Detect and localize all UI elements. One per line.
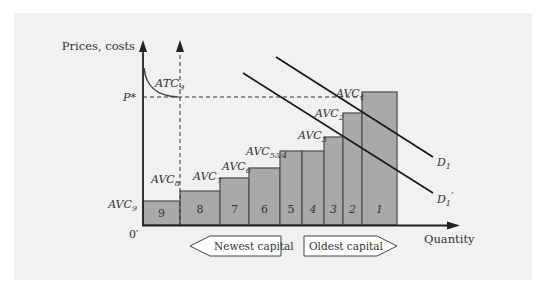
bar-label-4: 4 — [309, 203, 317, 216]
dashed-arrow-head-icon — [176, 40, 184, 52]
y-axis-arrow-icon — [139, 40, 147, 52]
origin-label: 0′ — [129, 228, 139, 241]
avc-label-3: AVC3 — [297, 129, 327, 144]
avc-label-9: AVC9 — [107, 198, 137, 213]
d1-prime-label: D1′ — [436, 190, 454, 208]
avc-label-8: AVC8 — [150, 173, 180, 188]
oldest-capital-label: Oldest capital — [309, 240, 384, 252]
bar-label-7: 7 — [231, 203, 238, 216]
avc-label-5: AVC5&4 — [245, 145, 287, 160]
bar-label-8: 8 — [197, 203, 204, 216]
newest-capital-arrow: Newest capital — [190, 236, 294, 256]
price-label: P* — [122, 91, 136, 104]
bar-label-3: 3 — [330, 203, 337, 216]
avc-label-6: AVC6 — [221, 160, 251, 175]
bar-label-6: 6 — [261, 203, 268, 216]
d1-label: D1 — [436, 156, 451, 171]
avc-label-7: AVC7 — [192, 170, 223, 185]
bar-label-1: 1 — [376, 203, 383, 216]
newest-capital-label: Newest capital — [214, 240, 294, 252]
avc-capital-diagram: 987654321 Prices, costs Quantity 0′ P* A… — [0, 0, 546, 295]
oldest-capital-arrow: Oldest capital — [304, 236, 397, 256]
avc-label-1: AVC1 — [335, 87, 365, 102]
capital-bar-7 — [220, 178, 249, 225]
x-axis-arrow-icon — [447, 222, 460, 230]
y-axis-label: Prices, costs — [62, 39, 135, 53]
capital-bar-6 — [249, 168, 280, 225]
x-axis-label: Quantity — [424, 232, 475, 246]
avc-label-2: AVC2 — [314, 107, 344, 122]
bar-label-9: 9 — [158, 207, 165, 220]
bar-label-2: 2 — [348, 203, 356, 216]
bar-label-5: 5 — [288, 203, 295, 216]
